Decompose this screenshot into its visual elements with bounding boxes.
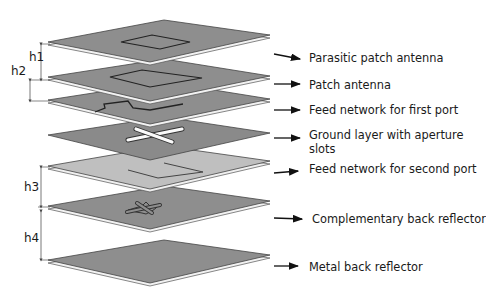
arrow-icon [274, 218, 302, 219]
label-metal-back-reflector: Metal back reflector [309, 260, 423, 274]
dimension-h2 [30, 80, 50, 101]
dimension-label-h4: h4 [24, 231, 39, 245]
label-ground-layer-line1: Ground layer with aperture [309, 128, 464, 142]
label-parasitic-patch-antenna: Parasitic patch antenna [309, 51, 444, 65]
arrow-icon [274, 171, 298, 173]
dimension-label-h1: h1 [29, 50, 44, 64]
dimension-label-h3: h3 [24, 180, 39, 194]
label-ground-layer-line2: slots [309, 142, 335, 156]
label-complementary-back-reflector: Complementary back reflector [312, 212, 486, 226]
dimension-h3 [38, 167, 50, 207]
arrow-icon [274, 54, 300, 59]
label-patch-antenna: Patch antenna [309, 78, 391, 92]
dimension-h4 [41, 211, 50, 260]
label-feed-network-first-port: Feed network for first port [309, 103, 458, 117]
pointer-arrows [274, 54, 302, 266]
label-feed-network-second-port: Feed network for second port [309, 162, 477, 176]
layer-complementary-back-reflector [48, 186, 270, 232]
dimension-label-h2: h2 [11, 64, 26, 78]
layer-metal-back-reflector [48, 240, 270, 286]
layer-parasitic-patch-antenna [48, 20, 270, 65]
